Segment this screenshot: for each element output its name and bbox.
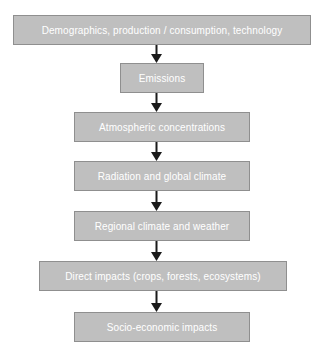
flow-node-label: Socio-economic impacts <box>107 322 218 333</box>
flow-node-radiation-global-climate: Radiation and global climate <box>74 161 250 191</box>
flow-node-label: Regional climate and weather <box>95 221 230 232</box>
flowchart-canvas: Demographics, production / consumption, … <box>0 0 324 362</box>
down-arrow-icon <box>150 291 163 312</box>
flow-node-label: Radiation and global climate <box>98 171 226 182</box>
flow-node-label: Emissions <box>139 73 185 84</box>
down-arrow-icon <box>150 93 163 112</box>
flow-node-emissions: Emissions <box>120 63 204 93</box>
flow-node-regional-climate-weather: Regional climate and weather <box>74 211 250 241</box>
flow-node-label: Demographics, production / consumption, … <box>42 25 283 36</box>
flow-node-drivers: Demographics, production / consumption, … <box>13 15 311 45</box>
down-arrow-icon <box>150 241 163 261</box>
down-arrow-icon <box>150 45 163 63</box>
down-arrow-icon <box>150 191 163 211</box>
flow-node-atmospheric-concentrations: Atmospheric concentrations <box>74 112 250 142</box>
flow-node-direct-impacts: Direct impacts (crops, forests, ecosyste… <box>39 261 287 291</box>
down-arrow-icon <box>150 142 163 161</box>
flow-node-label: Atmospheric concentrations <box>99 122 225 133</box>
flow-node-socio-economic-impacts: Socio-economic impacts <box>74 312 250 342</box>
flow-node-label: Direct impacts (crops, forests, ecosyste… <box>65 271 260 282</box>
